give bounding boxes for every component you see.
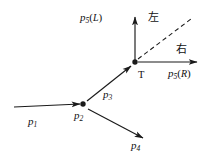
momentum-diagram: p1 p2 p3 p4 p5(L) p5(R) T 左 右 — [0, 0, 220, 158]
vertex-dot-T — [132, 59, 137, 64]
label-p2: p2 — [74, 110, 83, 122]
label-p5L-close-paren: ) — [98, 11, 102, 23]
label-p5-left: p5(L) — [80, 12, 102, 24]
label-p4-subscript: 4 — [137, 144, 141, 153]
label-right-cjk: 右 — [176, 44, 187, 55]
label-p4: p4 — [131, 140, 140, 152]
label-p2-subscript: 2 — [80, 114, 84, 123]
label-vertex-t: T — [138, 70, 145, 81]
vertex-dot-p2 — [80, 101, 85, 106]
label-p1: p1 — [28, 116, 37, 128]
p4-arrow — [88, 109, 143, 138]
label-p5R-close-paren: ) — [187, 67, 191, 79]
label-p5-right: p5(R) — [168, 68, 191, 80]
label-p3-subscript: 3 — [109, 93, 113, 102]
label-p3: p3 — [103, 89, 112, 101]
label-p1-subscript: 1 — [34, 120, 38, 129]
p1-incoming-arrow — [14, 104, 80, 107]
label-left-cjk: 左 — [148, 12, 159, 23]
